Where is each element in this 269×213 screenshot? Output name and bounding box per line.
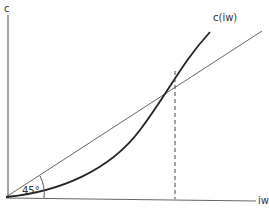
y-axis-label: c: [4, 3, 10, 14]
angle-arc: [40, 176, 44, 198]
x-axis: [6, 198, 256, 201]
45-degree-line: [6, 31, 262, 197]
curve-label: c(iw): [213, 12, 237, 23]
angle-label: 45°: [22, 185, 40, 196]
diagram-canvas: c iw c(iw) 45°: [0, 0, 269, 213]
x-axis-label: iw: [258, 195, 269, 206]
cost-function-diagram: c iw c(iw) 45°: [0, 0, 269, 213]
cost-curve: [6, 32, 210, 197]
